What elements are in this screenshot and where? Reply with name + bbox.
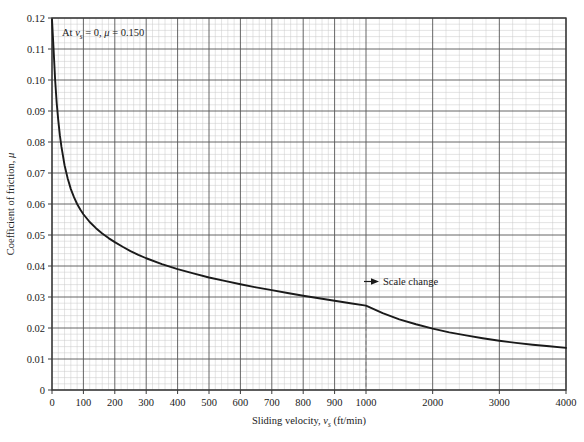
x-axis-tick-label: 600 <box>233 397 249 408</box>
y-axis-tick-label: 0.11 <box>27 44 45 55</box>
x-axis-tick-label: 200 <box>107 397 123 408</box>
x-axis-tick-label: 400 <box>170 397 186 408</box>
y-axis-tick-label: 0.12 <box>27 13 45 24</box>
x-axis-tick-label: 0 <box>49 397 54 408</box>
y-axis-tick-label: 0 <box>40 385 45 396</box>
x-axis-tick-label: 800 <box>295 397 311 408</box>
y-axis-tick-label: 0.10 <box>27 75 45 86</box>
y-axis-tick-label: 0.09 <box>27 106 45 117</box>
chart-background <box>0 0 584 442</box>
x-axis-tick-label: 300 <box>138 397 154 408</box>
y-axis-tick-label: 0.02 <box>27 323 45 334</box>
x-axis-tick-label: 500 <box>201 397 217 408</box>
y-axis-tick-label: 0.04 <box>27 261 46 272</box>
y-axis-tick-label: 0.07 <box>27 168 45 179</box>
y-axis-tick-label: 0.06 <box>27 199 45 210</box>
x-axis-tick-label: 2000 <box>422 397 443 408</box>
x-axis-tick-label: 100 <box>76 397 92 408</box>
x-axis-tick-label: 700 <box>264 397 280 408</box>
x-axis-tick-label: 1000 <box>356 397 377 408</box>
friction-coefficient-chart: 0100200300400500600700800900100020003000… <box>0 0 584 442</box>
x-axis-tick-label: 3000 <box>489 397 510 408</box>
annotation-scale-change: Scale change <box>383 276 438 287</box>
y-axis-tick-label: 0.03 <box>27 292 45 303</box>
x-axis-tick-label: 4000 <box>556 397 577 408</box>
y-axis-tick-label: 0.08 <box>27 137 45 148</box>
chart-canvas: 0100200300400500600700800900100020003000… <box>0 0 584 442</box>
y-axis-tick-label: 0.05 <box>27 230 45 241</box>
x-axis-tick-label: 900 <box>327 397 343 408</box>
y-axis-tick-label: 0.01 <box>27 354 45 365</box>
y-axis-title: Coefficient of friction, μ <box>5 153 16 255</box>
